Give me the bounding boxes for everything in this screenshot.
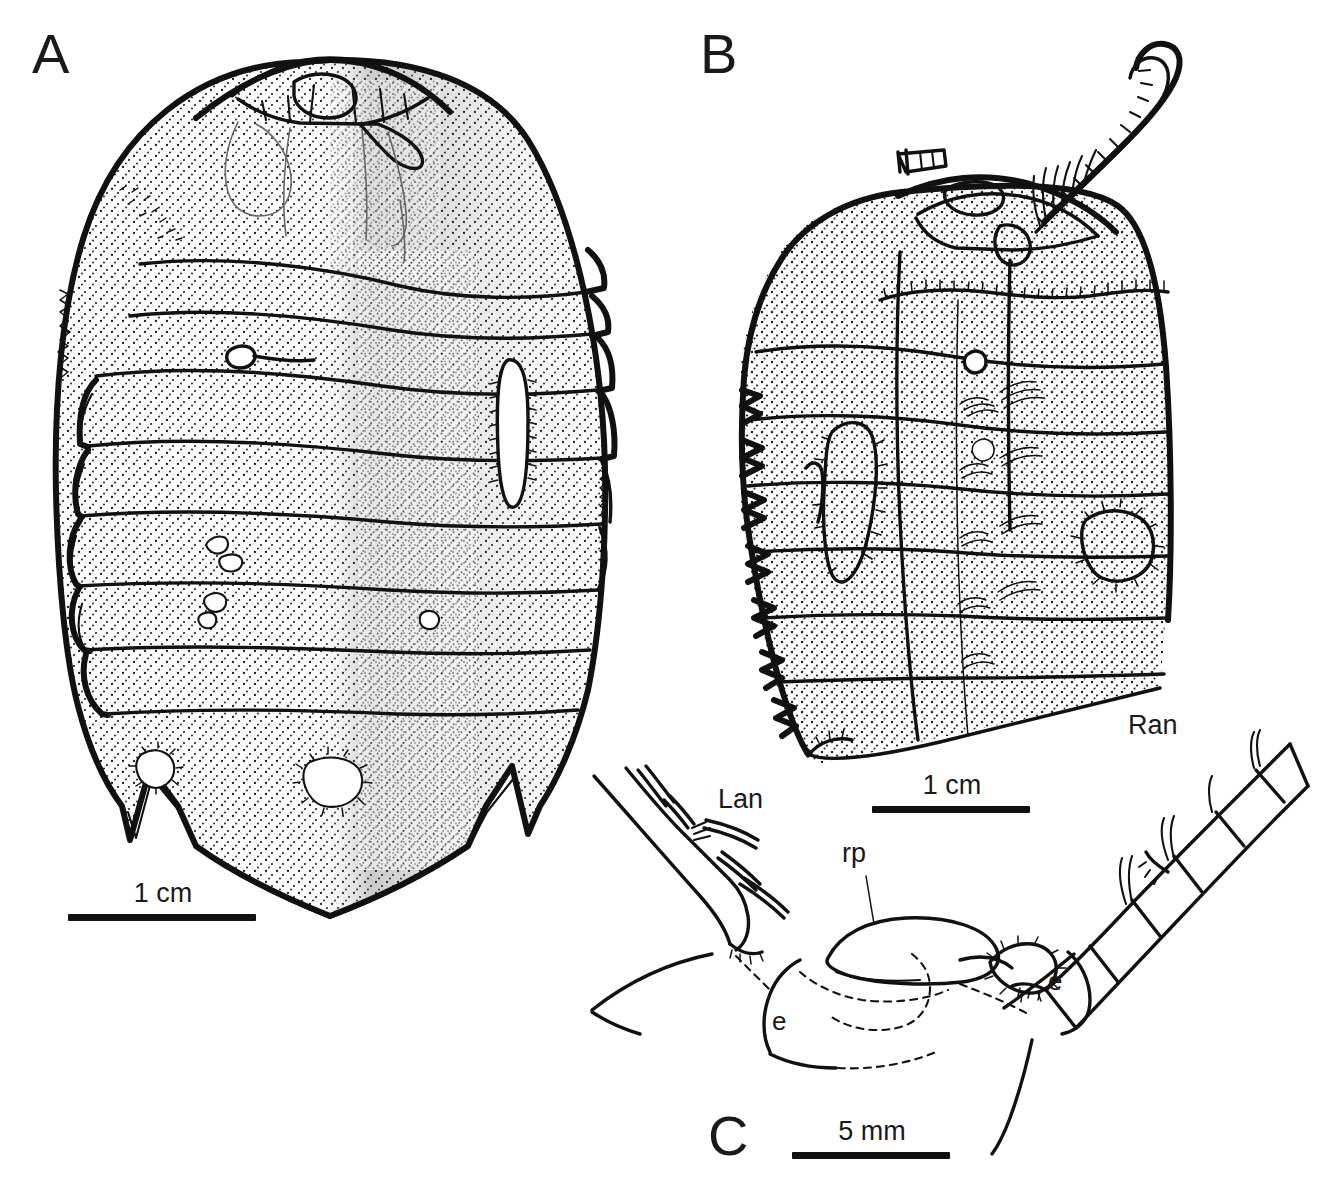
scale-bar-line-b <box>872 806 1030 813</box>
annotation-ran: Ran <box>1128 712 1178 739</box>
scale-label-panel-b: 1 cm <box>872 772 1032 799</box>
scale-bar-line-a <box>68 914 256 921</box>
scale-bar-panel-a: 1 cm <box>68 880 258 921</box>
scale-bar-line-c <box>792 1152 950 1159</box>
figure-canvas: A B C 1 cm 1 cm 5 mm Lan Ran rp e e <box>0 0 1334 1190</box>
annotation-lan: Lan <box>718 786 763 813</box>
scale-bar-panel-c: 5 mm <box>792 1118 952 1159</box>
scale-label-panel-a: 1 cm <box>68 880 258 907</box>
annotation-eye-right: e <box>1048 968 1062 994</box>
panel-label-c: C <box>708 1108 748 1164</box>
panel-a-drawing <box>0 0 1334 1190</box>
panel-label-b: B <box>700 26 737 82</box>
scale-label-panel-c: 5 mm <box>792 1118 952 1145</box>
scale-bar-panel-b: 1 cm <box>872 772 1032 813</box>
panel-label-a: A <box>32 26 69 82</box>
annotation-eye-left: e <box>772 1008 786 1034</box>
annotation-rp: rp <box>842 840 866 867</box>
